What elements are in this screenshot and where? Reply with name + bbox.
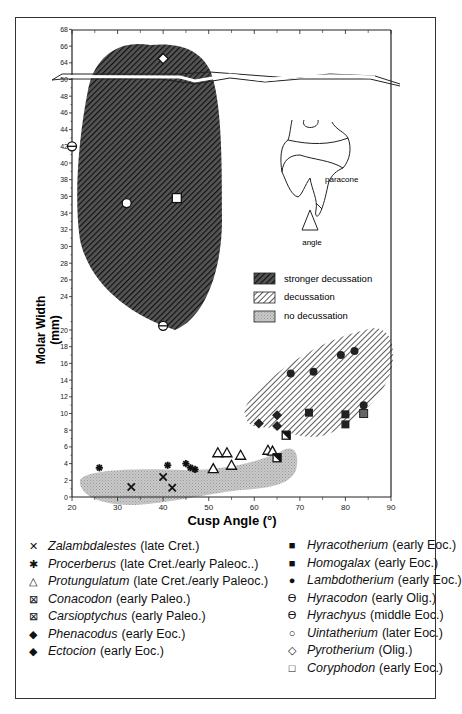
legend-taxon-name: Carsioptychus — [48, 608, 127, 626]
marker-filled-circle — [337, 351, 345, 359]
marker-filled-square — [341, 410, 349, 418]
legend-symbol-icon: ϴ — [283, 590, 301, 608]
legend-item: ϴHyracodon(early Olig.) — [283, 590, 462, 608]
svg-text:38: 38 — [60, 176, 68, 183]
svg-text:32: 32 — [60, 226, 68, 233]
marker-open-circle — [122, 199, 131, 208]
legend-item: ◆Phenacodus(early Eoc.) — [24, 626, 268, 644]
legend-taxon-era: (early Olig.) — [371, 590, 436, 608]
legend-taxon-name: Hyrachyus — [307, 607, 366, 625]
legend-symbol-icon: ✱ — [24, 556, 42, 574]
legend-taxon-name: Procerberus — [48, 556, 116, 574]
marker-asterisk — [96, 464, 103, 471]
legend-taxon-name: Coryphodon — [307, 660, 375, 678]
svg-text:40: 40 — [60, 160, 68, 167]
inset-label-paracone: paracone — [325, 175, 359, 184]
legend-item: ⊠Conacodon(early Paleo.) — [24, 591, 268, 609]
svg-text:34: 34 — [60, 210, 68, 217]
marker-filled-circle — [287, 369, 295, 377]
marker-theta — [159, 321, 168, 330]
legend-item: ◆Ectocion(early Eoc.) — [24, 643, 268, 661]
svg-text:10: 10 — [60, 410, 68, 417]
svg-text:90: 90 — [387, 503, 396, 512]
region-legend-label: no decussation — [284, 310, 348, 321]
svg-text:14: 14 — [60, 377, 68, 384]
marker-open-triangle — [222, 448, 232, 457]
marker-open-square — [172, 194, 181, 203]
legend-taxon-era: (late Cret.) — [140, 538, 199, 556]
legend-item: ✱Procerberus(late Cret./early Paleoc..) — [24, 556, 268, 574]
legend-symbol-icon: ⊠ — [24, 591, 42, 609]
legend-taxon-name: Hyracodon — [307, 590, 367, 608]
svg-text:60: 60 — [250, 503, 259, 512]
svg-text:20: 20 — [68, 503, 77, 512]
marker-filled-square — [341, 420, 349, 428]
legend-taxon-era: (late Cret./early Paleoc.) — [133, 573, 268, 591]
legend-item: ●Lambdotherium(early Eoc.) — [283, 572, 462, 590]
svg-text:30: 30 — [60, 243, 68, 250]
legend-symbol-icon: □ — [283, 660, 301, 678]
legend-taxon-era: (early Eoc.) — [374, 555, 438, 573]
legend-taxon-era: (early Paleo.) — [116, 591, 190, 609]
marker-gray-square — [360, 410, 368, 418]
legend-item: ■Hyracotherium(early Eoc.) — [283, 537, 462, 555]
legend-taxon-era: (middle Eoc.) — [370, 607, 444, 625]
legend-taxon-era: (early Eoc.) — [392, 537, 456, 555]
svg-text:4: 4 — [64, 460, 68, 467]
svg-text:6: 6 — [64, 443, 68, 450]
legend-taxon-era: (early Eoc.) — [398, 572, 462, 590]
legend-symbol-icon: ◇ — [283, 642, 301, 660]
marker-theta — [68, 142, 77, 151]
legend-taxon-era: (early Eoc.) — [122, 626, 186, 644]
legend-item: ○Uintatherium(later Eoc.) — [283, 625, 462, 643]
legend-symbol-icon: ◆ — [24, 643, 42, 661]
svg-text:66: 66 — [60, 43, 68, 50]
y-axis-title: Molar Width — [34, 296, 48, 365]
svg-text:12: 12 — [60, 393, 68, 400]
marker-filled-circle — [351, 347, 359, 355]
legend-taxon-name: Lambdotherium — [307, 572, 394, 590]
marker-filled-circle — [310, 368, 318, 376]
legend-taxon-name: Pyrotherium — [307, 642, 374, 660]
y-axis-unit: (mm) — [48, 315, 62, 344]
marker-asterisk — [164, 462, 171, 469]
svg-text:8: 8 — [64, 427, 68, 434]
region-legend-label: decussation — [284, 291, 335, 302]
legend-taxon-name: Zalambdalestes — [48, 538, 136, 556]
svg-text:0: 0 — [64, 494, 68, 501]
legend-taxon-era: (early Paleo.) — [131, 608, 205, 626]
marker-crossed-square — [273, 454, 281, 462]
legend-item: ■Homogalax(early Eoc.) — [283, 555, 462, 573]
marker-crossed-square — [282, 431, 290, 439]
svg-text:44: 44 — [60, 126, 68, 133]
region-legend: stronger decussation decussation no decu… — [254, 273, 372, 322]
legend-symbol-icon: ■ — [283, 555, 301, 573]
legend-symbol-icon: ⊠ — [24, 608, 42, 626]
taxa-legend-left: ✕Zalambdalestes(late Cret.)✱Procerberus(… — [24, 538, 268, 661]
legend-item: △Protungulatum(late Cret./early Paleoc.) — [24, 573, 268, 591]
marker-filled-square — [305, 409, 313, 417]
marker-open-triangle — [213, 448, 223, 457]
marker-open-triangle — [226, 460, 236, 469]
marker-open-triangle — [208, 464, 218, 473]
legend-symbol-icon: ✕ — [24, 538, 42, 556]
legend-symbol-icon: ○ — [283, 625, 301, 643]
legend-taxon-era: (early Eoc.) — [379, 660, 443, 678]
svg-text:68: 68 — [60, 26, 68, 33]
svg-text:40: 40 — [159, 503, 168, 512]
svg-text:64: 64 — [60, 59, 68, 66]
svg-text:28: 28 — [60, 260, 68, 267]
legend-item: ✕Zalambdalestes(late Cret.) — [24, 538, 268, 556]
legend-item: ◇Pyrotherium(Olig.) — [283, 642, 462, 660]
legend-item: ϴHyrachyus(middle Eoc.) — [283, 607, 462, 625]
svg-text:30: 30 — [113, 503, 122, 512]
legend-symbol-icon: ■ — [283, 537, 301, 555]
y-ticks: 0246810121416182024262830323436384042444… — [60, 26, 72, 501]
legend-taxon-era: (early Eoc.) — [100, 643, 164, 661]
svg-text:2: 2 — [64, 477, 68, 484]
marker-asterisk — [191, 466, 198, 473]
svg-text:16: 16 — [60, 360, 68, 367]
legend-taxon-name: Hyracotherium — [307, 537, 388, 555]
svg-text:80: 80 — [341, 503, 350, 512]
legend-taxon-name: Homogalax — [307, 555, 370, 573]
